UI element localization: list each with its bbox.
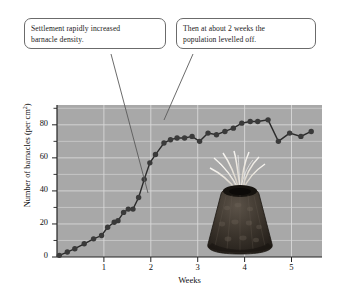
y-axis-label-exponent: 2 [22, 106, 28, 109]
y-tick-label: 40 [24, 185, 48, 194]
x-tick-label: 4 [235, 262, 255, 272]
data-point [121, 210, 126, 215]
data-point [231, 125, 236, 130]
data-point [248, 119, 253, 124]
y-tick-label: 20 [24, 218, 48, 227]
data-point [72, 246, 77, 251]
callout-levelled-off: Then at about 2 weeks the population lev… [176, 18, 316, 49]
data-point [115, 218, 120, 223]
x-tick-label: 5 [282, 262, 302, 272]
callout-levelled-off-line2: population levelled off. [183, 34, 309, 45]
data-point [309, 129, 314, 134]
data-point [91, 236, 96, 241]
x-tick-label: 1 [94, 262, 114, 272]
data-point [298, 134, 303, 139]
data-point [182, 135, 187, 140]
data-point [126, 206, 131, 211]
data-point [82, 241, 87, 246]
data-point [255, 119, 260, 124]
y-tick-label: 0 [24, 251, 48, 260]
data-point [161, 140, 166, 145]
data-point [153, 152, 158, 157]
x-tick-label: 3 [188, 262, 208, 272]
data-point [130, 206, 135, 211]
x-axis-label: Weeks [57, 275, 322, 285]
callout-settlement: Settlement rapidly increased barnacle de… [24, 18, 166, 49]
data-point [214, 132, 219, 137]
callout-settlement-line2: barnacle density. [31, 34, 159, 45]
data-point [205, 130, 210, 135]
barnacle-density-figure: Settlement rapidly increased barnacle de… [0, 0, 342, 298]
data-point [99, 233, 104, 238]
plot-background [57, 105, 322, 257]
data-point [265, 117, 270, 122]
data-point [65, 249, 70, 254]
callout-levelled-off-line1: Then at about 2 weeks the [183, 23, 309, 34]
data-point [222, 129, 227, 134]
data-point [105, 225, 110, 230]
x-tick-label: 2 [141, 262, 161, 272]
data-point [136, 195, 141, 200]
y-axis-label-tail: ) [23, 103, 32, 106]
callout-settlement-line1: Settlement rapidly increased [31, 23, 159, 34]
data-point [287, 130, 292, 135]
data-point [147, 160, 152, 165]
data-point [57, 253, 62, 258]
data-point [189, 134, 194, 139]
y-tick-label: 80 [24, 119, 48, 128]
data-point [168, 137, 173, 142]
data-point [197, 139, 202, 144]
y-tick-label: 60 [24, 152, 48, 161]
data-point [174, 135, 179, 140]
data-point [276, 139, 281, 144]
data-point [239, 120, 244, 125]
